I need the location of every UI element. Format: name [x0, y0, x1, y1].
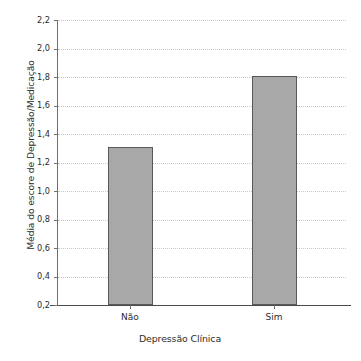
gridline — [58, 191, 346, 192]
x-tick-label: Sim — [239, 311, 309, 323]
y-tick-mark — [54, 106, 58, 107]
y-tick-label: 2,0 — [24, 44, 50, 53]
y-tick-label: 0,4 — [24, 272, 50, 281]
x-axis-spine — [50, 305, 351, 306]
bar-não[interactable] — [108, 147, 153, 305]
x-tick-mark — [274, 305, 275, 309]
gridline — [58, 220, 346, 221]
gridline — [58, 134, 346, 135]
y-tick-mark — [54, 220, 58, 221]
y-tick-label: 0,8 — [24, 215, 50, 224]
x-tick-label: Não — [95, 311, 165, 323]
y-tick-mark — [54, 191, 58, 192]
y-tick-label: 2,2 — [24, 16, 50, 25]
y-tick-mark — [54, 49, 58, 50]
y-tick-mark — [54, 163, 58, 164]
gridline — [58, 77, 346, 78]
y-tick-label: 1,8 — [24, 73, 50, 82]
gridline — [58, 248, 346, 249]
y-tick-label: 1,4 — [24, 130, 50, 139]
gridline — [58, 106, 346, 107]
plot-area — [58, 20, 346, 305]
y-tick-mark — [54, 305, 58, 306]
y-tick-label: 0,6 — [24, 244, 50, 253]
y-tick-label: 1,0 — [24, 187, 50, 196]
y-tick-mark — [54, 20, 58, 21]
gridline — [58, 49, 346, 50]
gridline — [58, 277, 346, 278]
y-tick-label: 1,6 — [24, 101, 50, 110]
y-tick-mark — [54, 134, 58, 135]
y-tick-mark — [54, 77, 58, 78]
gridline — [58, 20, 346, 21]
y-tick-label: 0,2 — [24, 301, 50, 310]
y-tick-mark — [54, 248, 58, 249]
bar-sim[interactable] — [252, 76, 297, 305]
x-tick-mark — [130, 305, 131, 309]
gridline — [58, 163, 346, 164]
y-tick-label: 1,2 — [24, 158, 50, 167]
x-axis-title: Depressão Clínica — [55, 333, 305, 345]
bar-chart-figure: Média do escore de Depressão/Medicação 0… — [0, 0, 361, 361]
y-tick-mark — [54, 277, 58, 278]
